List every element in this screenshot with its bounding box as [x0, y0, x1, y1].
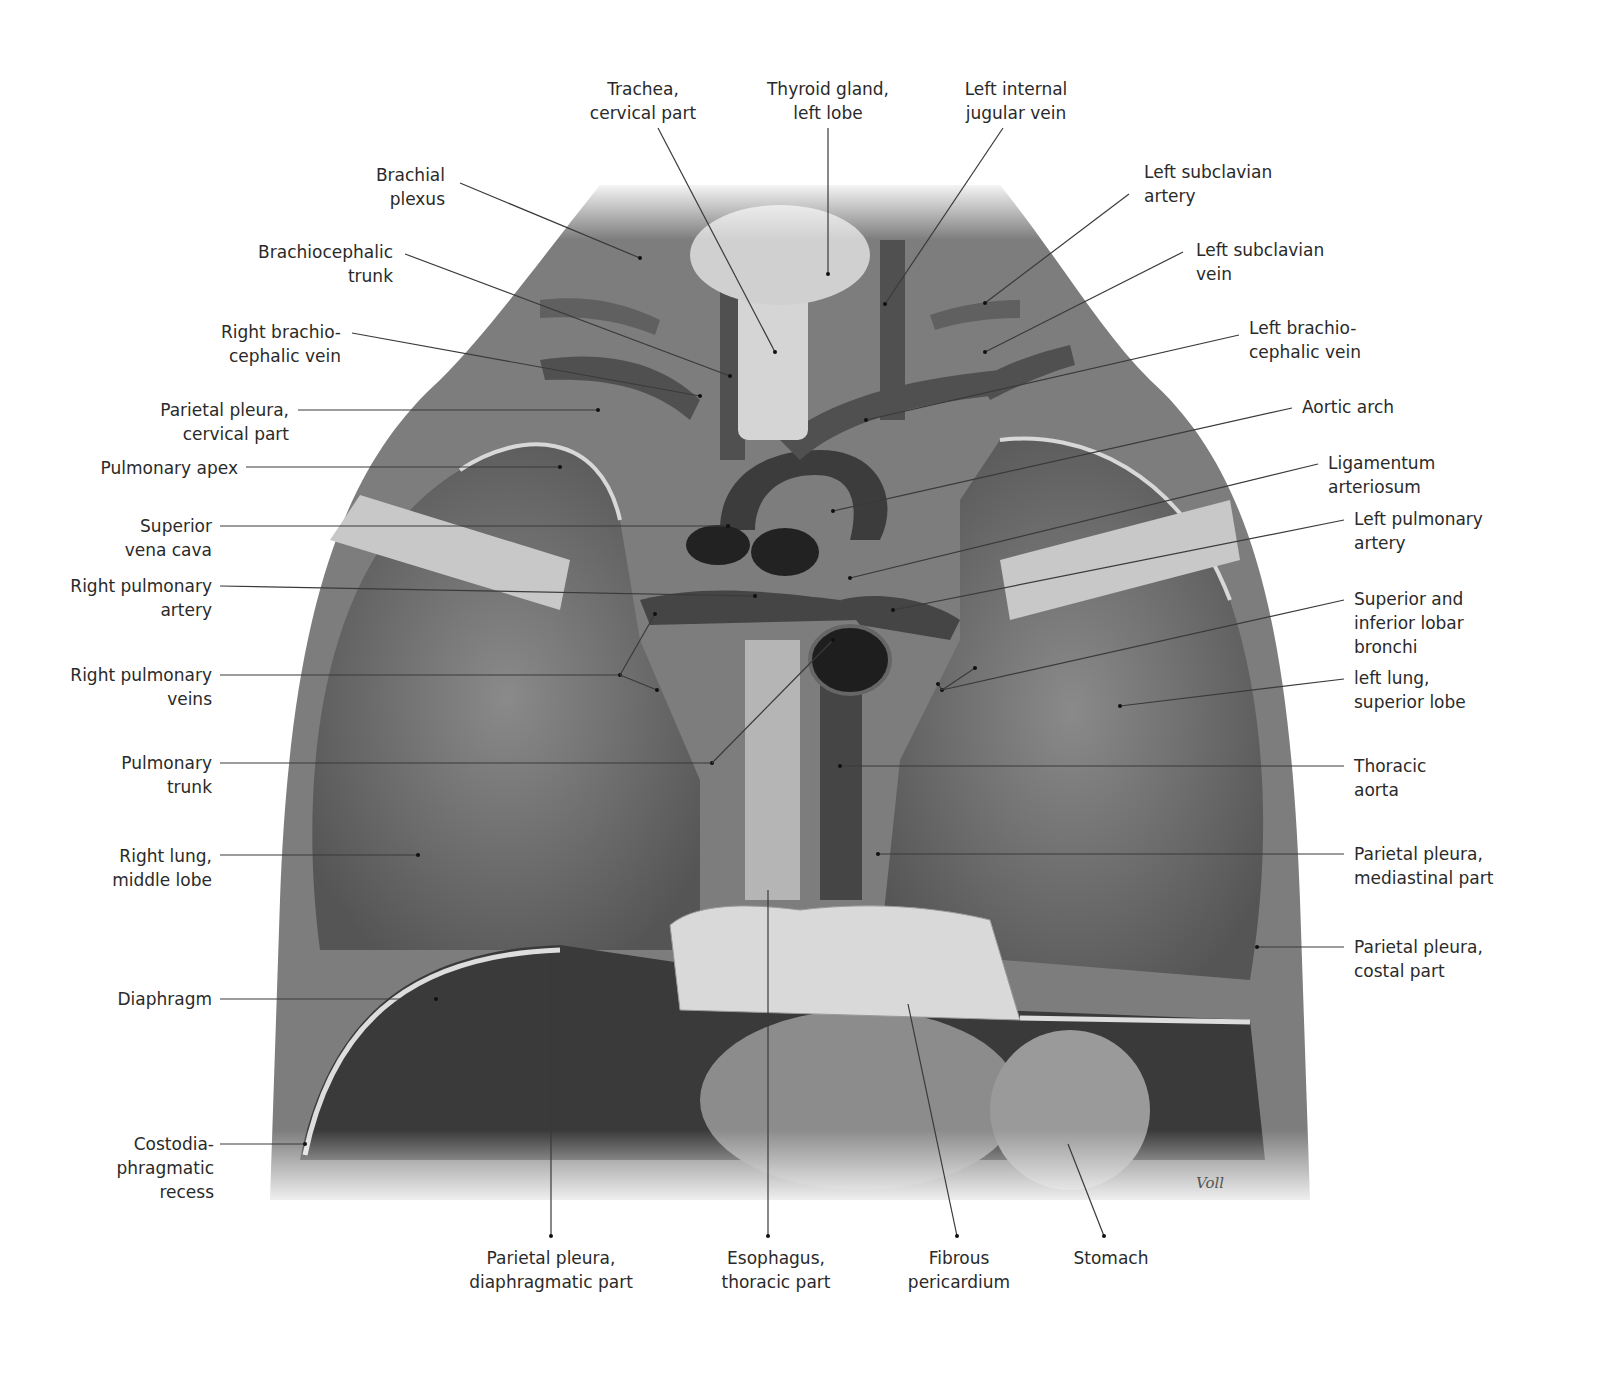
- label-parietal-pleura-diaphragmatic: Parietal pleura, diaphragmatic part: [469, 1246, 633, 1294]
- label-esophagus-thoracic: Esophagus, thoracic part: [722, 1246, 831, 1294]
- label-lobar-bronchi: Superior and inferior lobar bronchi: [1354, 587, 1464, 659]
- label-trachea-cervical: Trachea, cervical part: [590, 77, 696, 125]
- label-parietal-pleura-costal: Parietal pleura, costal part: [1354, 935, 1483, 983]
- trachea-shape: [738, 290, 808, 440]
- label-right-lung-middle-lobe: Right lung, middle lobe: [112, 844, 212, 892]
- fibrous-pericardium-shape: [670, 906, 1020, 1020]
- label-left-subclavian-vein: Left subclavian vein: [1196, 238, 1324, 286]
- label-left-subclavian-artery: Left subclavian artery: [1144, 160, 1272, 208]
- label-superior-vena-cava: Superior vena cava: [125, 514, 212, 562]
- label-ligamentum-arteriosum: Ligamentum arteriosum: [1328, 451, 1435, 499]
- label-left-internal-jugular: Left internal jugular vein: [965, 77, 1068, 125]
- label-brachiocephalic-trunk: Brachiocephalic trunk: [258, 240, 393, 288]
- label-costodiaphragmatic-recess: Costodia- phragmatic recess: [117, 1132, 214, 1204]
- label-left-brachiocephalic-vein: Left brachio- cephalic vein: [1249, 316, 1361, 364]
- label-pulmonary-apex: Pulmonary apex: [101, 456, 239, 480]
- label-right-pulmonary-artery: Right pulmonary artery: [70, 574, 212, 622]
- label-aortic-arch: Aortic arch: [1302, 395, 1394, 419]
- label-parietal-pleura-mediastinal: Parietal pleura, mediastinal part: [1354, 842, 1493, 890]
- label-fibrous-pericardium: Fibrous pericardium: [908, 1246, 1010, 1294]
- label-diaphragm: Diaphragm: [117, 987, 212, 1011]
- pulmonary-trunk-shape: [810, 626, 890, 694]
- label-parietal-pleura-cervical: Parietal pleura, cervical part: [160, 398, 289, 446]
- artist-signature: Voll: [1196, 1174, 1224, 1192]
- label-left-lung-superior-lobe: left lung, superior lobe: [1354, 666, 1466, 714]
- label-brachial-plexus: Brachial plexus: [376, 163, 445, 211]
- anatomy-figure: Brachial plexusBrachiocephalic trunkRigh…: [0, 0, 1601, 1387]
- label-stomach: Stomach: [1074, 1246, 1149, 1270]
- label-left-pulmonary-artery: Left pulmonary artery: [1354, 507, 1483, 555]
- esophagus-shape: [745, 640, 800, 900]
- label-right-brachiocephalic-vein: Right brachio- cephalic vein: [221, 320, 341, 368]
- label-thoracic-aorta: Thoracic aorta: [1354, 754, 1426, 802]
- thoracic-aorta-shape: [820, 680, 862, 900]
- label-right-pulmonary-veins: Right pulmonary veins: [70, 663, 212, 711]
- label-pulmonary-trunk: Pulmonary trunk: [121, 751, 212, 799]
- label-thyroid-left-lobe: Thyroid gland, left lobe: [767, 77, 889, 125]
